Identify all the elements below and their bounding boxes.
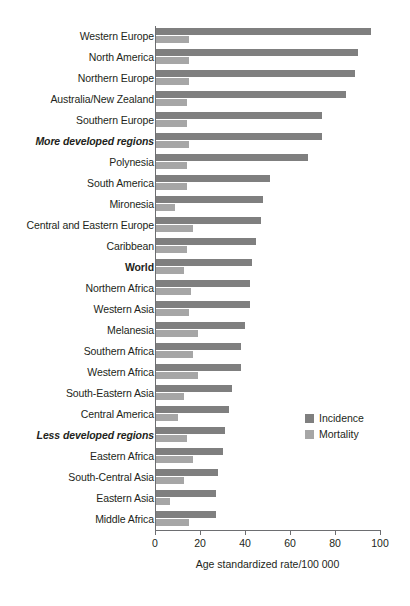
x-tick — [155, 530, 156, 535]
incidence-swatch — [305, 414, 314, 423]
chart-row: Eastern Asia — [0, 488, 410, 509]
mortality-bar — [155, 99, 187, 106]
category-label: South-Eastern Asia — [4, 383, 154, 404]
row-bars — [155, 467, 405, 488]
mortality-swatch — [305, 430, 314, 439]
x-axis-line — [155, 530, 380, 531]
mortality-bar — [155, 477, 184, 484]
chart-row: Northern Africa — [0, 278, 410, 299]
row-bars — [155, 89, 405, 110]
mortality-bar — [155, 246, 187, 253]
mortality-bar — [155, 372, 198, 379]
chart-row: Caribbean — [0, 236, 410, 257]
chart-rows: Western EuropeNorth AmericaNorthern Euro… — [0, 26, 410, 530]
category-label: Western Africa — [4, 362, 154, 383]
row-bars — [155, 68, 405, 89]
mortality-bar — [155, 78, 189, 85]
row-bars — [155, 131, 405, 152]
x-tick-label: 0 — [135, 537, 175, 549]
mortality-bar — [155, 120, 187, 127]
x-tick-label: 80 — [315, 537, 355, 549]
category-label: Middle Africa — [4, 509, 154, 530]
mortality-bar — [155, 309, 189, 316]
mortality-bar — [155, 456, 193, 463]
incidence-bar — [155, 49, 358, 56]
chart-row: Southern Africa — [0, 341, 410, 362]
category-label: Polynesia — [4, 152, 154, 173]
row-bars — [155, 320, 405, 341]
legend-item-mortality: Mortality — [305, 427, 364, 441]
category-label: Melanesia — [4, 320, 154, 341]
mortality-bar — [155, 498, 170, 505]
row-bars — [155, 26, 405, 47]
incidence-bar — [155, 427, 225, 434]
legend-label-incidence: Incidence — [319, 412, 364, 424]
chart-row: South America — [0, 173, 410, 194]
row-bars — [155, 509, 405, 530]
category-label: Caribbean — [4, 236, 154, 257]
incidence-bar — [155, 343, 241, 350]
incidence-bar — [155, 28, 371, 35]
chart-row: Northern Europe — [0, 68, 410, 89]
category-label: Mironesia — [4, 194, 154, 215]
chart-row: Australia/New Zealand — [0, 89, 410, 110]
row-bars — [155, 236, 405, 257]
row-bars — [155, 47, 405, 68]
category-label: Western Asia — [4, 299, 154, 320]
mortality-bar — [155, 330, 198, 337]
x-axis-title: Age standardized rate/100 000 — [155, 558, 380, 570]
mortality-bar — [155, 141, 189, 148]
row-bars — [155, 404, 405, 425]
row-bars — [155, 425, 405, 446]
row-bars — [155, 488, 405, 509]
chart-row: Western Asia — [0, 299, 410, 320]
incidence-bar — [155, 154, 308, 161]
mortality-bar — [155, 267, 184, 274]
incidence-bar — [155, 301, 250, 308]
incidence-bar — [155, 175, 270, 182]
incidence-bar — [155, 238, 256, 245]
chart-row: Central and Eastern Europe — [0, 215, 410, 236]
mortality-bar — [155, 183, 187, 190]
incidence-bar — [155, 112, 322, 119]
incidence-bar — [155, 511, 216, 518]
category-label: Southern Europe — [4, 110, 154, 131]
row-bars — [155, 215, 405, 236]
category-label: South-Central Asia — [4, 467, 154, 488]
mortality-bar — [155, 519, 189, 526]
incidence-bar — [155, 133, 322, 140]
mortality-bar — [155, 36, 189, 43]
chart-row: More developed regions — [0, 131, 410, 152]
category-label: Southern Africa — [4, 341, 154, 362]
chart-legend: Incidence Mortality — [305, 411, 364, 443]
category-label: South America — [4, 173, 154, 194]
incidence-bar — [155, 322, 245, 329]
chart-row: Western Europe — [0, 26, 410, 47]
chart-row: Melanesia — [0, 320, 410, 341]
category-label: World — [4, 257, 154, 278]
x-tick — [335, 530, 336, 535]
mortality-bar — [155, 414, 178, 421]
incidence-bar — [155, 385, 232, 392]
chart-row: Southern Europe — [0, 110, 410, 131]
x-tick-label: 40 — [225, 537, 265, 549]
row-bars — [155, 110, 405, 131]
category-label: Eastern Africa — [4, 446, 154, 467]
category-label: Australia/New Zealand — [4, 89, 154, 110]
row-bars — [155, 278, 405, 299]
mortality-bar — [155, 288, 191, 295]
mortality-bar — [155, 204, 175, 211]
y-axis-line — [155, 26, 156, 531]
category-label: Northern Africa — [4, 278, 154, 299]
incidence-bar — [155, 280, 250, 287]
chart-row: Eastern Africa — [0, 446, 410, 467]
mortality-bar — [155, 162, 187, 169]
row-bars — [155, 152, 405, 173]
incidence-bar — [155, 196, 263, 203]
legend-item-incidence: Incidence — [305, 411, 364, 425]
incidence-bar — [155, 364, 241, 371]
chart-row: South-Eastern Asia — [0, 383, 410, 404]
chart-row: World — [0, 257, 410, 278]
category-label: Western Europe — [4, 26, 154, 47]
row-bars — [155, 257, 405, 278]
